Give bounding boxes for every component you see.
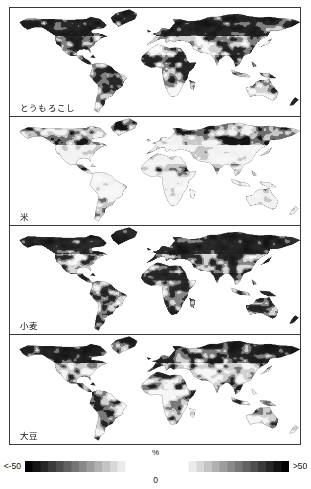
colorbar-negative-gradient <box>25 461 133 472</box>
figure-root: とうもろこし 米 小麦 大豆 % <-50 >50 0 <box>0 0 311 489</box>
colorbar-row: <-50 >50 <box>0 459 311 473</box>
map-panel-rice[interactable]: 米 <box>10 117 300 226</box>
colorbar-unit-label: % <box>0 449 311 457</box>
panel-label-soybean: 大豆 <box>20 432 38 441</box>
map-panel-maize[interactable]: とうもろこし <box>10 8 300 117</box>
colorbar-positive-gradient <box>181 461 289 472</box>
panel-label-rice: 米 <box>20 213 29 222</box>
colorbar-min-label: <-50 <box>4 462 21 471</box>
panel-label-maize: とうもろこし <box>20 104 75 113</box>
map-panel-wheat[interactable]: 小麦 <box>10 226 300 335</box>
map-panel-stack: とうもろこし 米 小麦 大豆 <box>9 7 301 445</box>
map-panel-soybean[interactable]: 大豆 <box>10 335 300 444</box>
colorbar-legend: % <-50 >50 0 <box>0 449 311 489</box>
map-canvas-soybean <box>10 335 300 444</box>
map-canvas-rice <box>10 117 300 225</box>
colorbar-center-gap <box>133 461 181 472</box>
colorbar-max-label: >50 <box>293 462 307 471</box>
panel-label-wheat: 小麦 <box>20 322 38 331</box>
map-canvas-wheat <box>10 226 300 334</box>
map-canvas-maize <box>10 8 300 116</box>
colorbar-center-label: 0 <box>0 476 311 485</box>
